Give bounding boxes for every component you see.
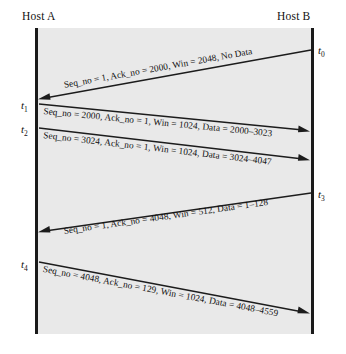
sequence-diagram: Host A Host B t0 t1 t2 t3 t4 <box>0 0 346 354</box>
arrow-layer <box>0 0 346 354</box>
arrow-message-1 <box>38 50 311 100</box>
